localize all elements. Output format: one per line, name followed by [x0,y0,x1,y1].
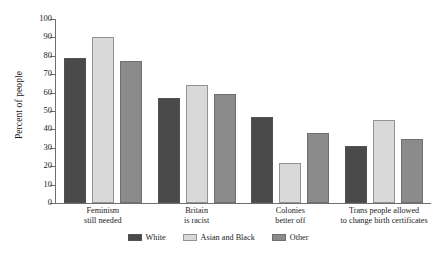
bar-group [337,19,431,203]
legend-swatch [183,234,197,241]
x-axis-category-label-line: better off [244,216,338,226]
x-axis-line [55,203,431,204]
y-tick-label: 70 [44,68,53,79]
x-axis-category-label-line: to change birth certificates [337,216,431,226]
y-tick-label: 90 [44,31,53,42]
bar [120,61,142,203]
y-tick-label: 100 [39,13,52,24]
legend-swatch [272,234,286,241]
legend-label: White [146,233,166,242]
bar-group [150,19,244,203]
x-axis-category-label-line: still needed [56,216,150,226]
x-axis-category-label-line: Britain [150,206,244,216]
x-axis-category-label-line: Trans people allowed [337,206,431,216]
legend-item[interactable]: Asian and Black [183,233,255,242]
bar [279,163,301,203]
plot-area: 0102030405060708090100 [55,19,431,203]
y-tick-label: 80 [44,50,53,61]
y-axis-title-text: Percent of people [14,71,24,139]
y-tick-label: 50 [44,105,53,116]
x-axis-category-label: Feminismstill needed [56,206,150,226]
legend-label: Asian and Black [201,233,255,242]
legend-item[interactable]: White [128,233,166,242]
bar [92,37,114,203]
y-tick-label: 30 [44,142,53,153]
bar [373,120,395,203]
bar [186,85,208,203]
legend-label: Other [290,233,309,242]
bar [251,117,273,203]
x-axis-category-label-line: Feminism [56,206,150,216]
y-tick-label: 40 [44,123,53,134]
y-tick-label: 20 [44,160,53,171]
y-tick-label: 10 [44,179,53,190]
bar [64,58,86,203]
bar-groups [56,19,431,203]
bar-group [244,19,338,203]
bar [307,133,329,203]
legend-swatch [128,234,142,241]
y-tick-label: 60 [44,87,53,98]
x-axis-category-label: Britainis racist [150,206,244,226]
x-axis-category-label: Coloniesbetter off [244,206,338,226]
bar [345,146,367,203]
x-axis-category-label: Trans people allowedto change birth cert… [337,206,431,226]
legend: WhiteAsian and BlackOther [0,233,436,242]
x-axis-category-label-line: Colonies [244,206,338,216]
bar [158,98,180,203]
bar [214,94,236,203]
bar-group [56,19,150,203]
x-axis-category-labels: Feminismstill neededBritainis racistColo… [56,206,431,226]
y-tick-label: 0 [48,197,52,208]
bar-chart: Percent of people 0102030405060708090100… [0,0,436,259]
y-axis-title: Percent of people [8,0,30,210]
legend-item[interactable]: Other [272,233,309,242]
bar [401,139,423,203]
x-axis-category-label-line: is racist [150,216,244,226]
